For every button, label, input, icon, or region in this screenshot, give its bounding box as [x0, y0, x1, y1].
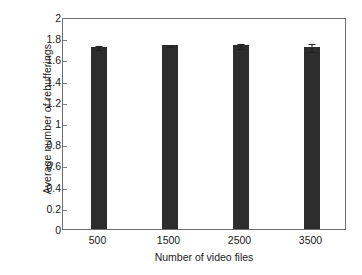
y-tick-mark: [63, 189, 67, 190]
y-tick-mark: [63, 104, 67, 105]
y-tick-mark: [63, 167, 67, 168]
y-tick-mark: [63, 210, 67, 211]
rebufferings-bar-chart: Average number of rebufferings 00.20.40.…: [0, 0, 362, 275]
bar: [91, 47, 107, 229]
y-tick-label: 1.6: [21, 54, 61, 66]
y-tick-mark: [63, 146, 67, 147]
error-bar-cap-top: [308, 44, 315, 45]
y-tick-label: 1.2: [21, 97, 61, 109]
y-tick-mark: [63, 40, 67, 41]
y-tick-label: 0: [21, 224, 61, 236]
x-tick-label: 3500: [281, 234, 341, 246]
y-tick-label: 2: [21, 12, 61, 24]
y-tick-label: 0.4: [21, 182, 61, 194]
plot-area: [62, 18, 346, 230]
x-tick-label: 500: [68, 234, 128, 246]
y-tick-label: 0.6: [21, 160, 61, 172]
y-tick-mark: [63, 83, 67, 84]
y-tick-label: 0.2: [21, 203, 61, 215]
y-tick-label: 1.8: [21, 33, 61, 45]
y-tick-label: 1: [21, 118, 61, 130]
x-axis-title: Number of video files: [62, 251, 346, 263]
bar: [162, 45, 178, 229]
y-tick-label: 1.4: [21, 76, 61, 88]
x-tick-label: 2500: [210, 234, 270, 246]
bar: [304, 47, 320, 229]
bar: [233, 45, 249, 229]
y-tick-mark: [63, 61, 67, 62]
x-tick-label: 1500: [139, 234, 199, 246]
y-tick-label: 0.8: [21, 139, 61, 151]
y-tick-mark: [63, 125, 67, 126]
